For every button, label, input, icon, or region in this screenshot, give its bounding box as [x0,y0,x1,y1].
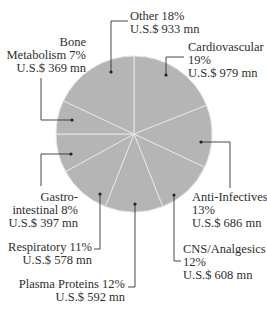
label-respiratory: Respiratory 11% U.S.$ 578 mn [8,241,92,267]
label-anti-value: U.S.$ 686 mn [192,217,267,230]
label-bone-value: U.S.$ 369 mn [6,62,86,75]
label-plasma-value: U.S.$ 592 mn [19,291,125,304]
label-cns-value: U.S.$ 608 mn [183,269,266,282]
label-cardiovascular-value: U.S.$ 979 mn [188,67,264,80]
label-bone-metabolism: Bone Metabolism 7% U.S.$ 369 mn [6,36,86,75]
label-cns-analgesics: CNS/Analgesics 12% U.S.$ 608 mn [183,243,266,282]
leader-cns [174,195,181,261]
label-gastro-value: U.S.$ 397 mn [9,217,78,230]
label-respiratory-value: U.S.$ 578 mn [8,254,92,267]
label-plasma-proteins: Plasma Proteins 12% U.S.$ 592 mn [19,278,125,304]
label-anti-infectives: Anti-Infectives 13% U.S.$ 686 mn [192,191,267,230]
label-gastro-intestinal: Gastro- intestinal 8% U.S.$ 397 mn [9,191,78,230]
leader-plasma [128,204,135,287]
label-other: Other 18% U.S.$ 933 mn [130,10,199,36]
label-other-value: U.S.$ 933 mn [130,23,199,36]
label-cardiovascular: Cardiovascular 19% U.S.$ 979 mn [188,41,264,80]
